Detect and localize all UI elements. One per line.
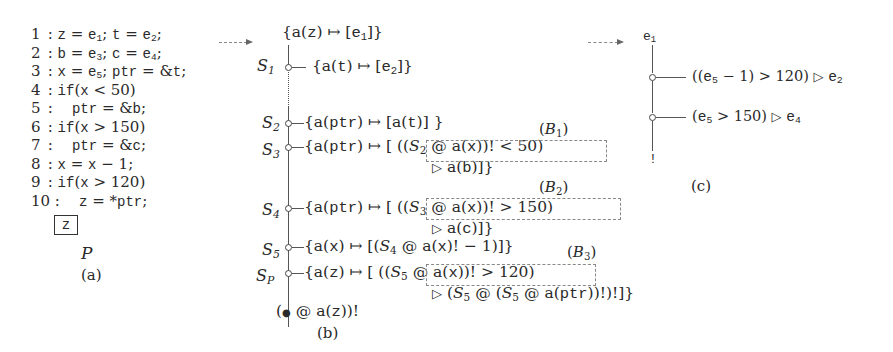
initial-state: {a(z) ↦ [e1]} <box>282 23 383 42</box>
state-label-sp: SP <box>256 266 274 285</box>
result-node-1 <box>649 74 656 81</box>
result-terminal: ! <box>649 152 657 167</box>
code-line-4: 4 : if(x < 50) <box>31 81 186 100</box>
branch-label-b1: (B1) <box>539 120 568 138</box>
caption-b: (b) <box>317 324 338 342</box>
edge <box>292 67 306 68</box>
state-node-s2 <box>285 120 292 127</box>
edge <box>292 147 304 148</box>
result-node-2 <box>649 114 656 121</box>
state-node-s5 <box>285 244 292 251</box>
arrow-b-to-c <box>588 42 618 43</box>
result-row-2: (e5 > 150) ▷ e4 <box>692 108 801 125</box>
state-s4-value-cont: ▷ a(c)]} <box>432 219 494 238</box>
code-line-5: 5 : ptr = &b; <box>31 99 186 118</box>
spine-segment <box>652 45 653 73</box>
caption-c: (c) <box>691 177 711 195</box>
state-label-s3: S3 <box>262 140 280 159</box>
code-line-8: 8 : x = x − 1; <box>31 155 186 174</box>
code-line-10: 10 : z = *ptr; <box>31 192 186 211</box>
final-query: (● @ a(z))! <box>276 302 359 321</box>
branch-box-b2 <box>426 198 621 220</box>
spine-dotted-segment <box>288 72 289 107</box>
code-line-7: 7 : ptr = &c; <box>31 136 186 155</box>
code-line-6: 6 : if(x > 150) <box>31 118 186 137</box>
spine-segment <box>288 45 289 66</box>
branch-label-b3: (B3) <box>567 243 596 261</box>
branch-box-b3 <box>426 264 596 286</box>
state-label-s1: S1 <box>257 56 275 75</box>
state-s5-value: {a(x) ↦ [(S4 @ a(x)! − 1)]} <box>304 237 514 256</box>
code-line-3: 3 : x = e5; ptr = &t; <box>31 62 186 81</box>
state-label-s5: S5 <box>262 240 280 259</box>
spine-segment <box>652 81 653 113</box>
code-line-2: 2 : b = e3; c = e4; <box>31 44 186 63</box>
arrow-a-to-b <box>219 42 247 43</box>
edge <box>656 77 686 78</box>
code-listing: 1 : z = e1; t = e2; 2 : b = e3; c = e4; … <box>31 25 186 210</box>
state-node-s3 <box>285 144 292 151</box>
branch-label-b2: (B2) <box>539 178 568 196</box>
result-row-1: ((e5 − 1) > 120) ▷ e2 <box>692 68 843 85</box>
code-line-1: 1 : z = e1; t = e2; <box>31 25 186 44</box>
spine-segment <box>652 121 653 151</box>
state-node-s4 <box>285 205 292 212</box>
state-label-s2: S2 <box>262 113 280 132</box>
state-sp-value-cont: ▷ (S5 @ (S5 @ a(ptr))!)!]} <box>432 284 634 303</box>
program-name: P <box>81 243 92 263</box>
state-s1-value: {a(t) ↦ [e2]} <box>312 57 413 76</box>
state-s2-value: {a(ptr) ↦ [a(t)] } <box>304 113 444 132</box>
code-line-9: 9 : if(x > 120) <box>31 173 186 192</box>
state-label-s4: S4 <box>262 200 280 219</box>
spine-segment <box>288 107 289 147</box>
edge <box>292 247 304 248</box>
edge <box>292 273 304 274</box>
state-node-s1 <box>285 64 292 71</box>
branch-box-b1 <box>426 140 607 162</box>
spine-segment <box>288 147 289 327</box>
state-node-sp <box>285 270 292 277</box>
caption-a: (a) <box>81 266 102 284</box>
edge <box>292 208 304 209</box>
edge <box>292 123 304 124</box>
boxed-variable-z: z <box>54 215 78 235</box>
edge <box>656 117 686 118</box>
root-value: e1 <box>643 29 656 44</box>
